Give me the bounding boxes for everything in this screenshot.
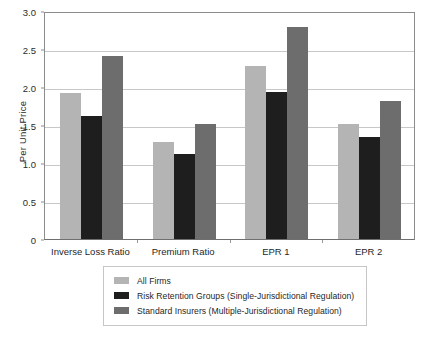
x-axis-tick-label: EPR 2 <box>355 246 382 257</box>
legend-label: All Firms <box>137 276 171 286</box>
y-axis-tick-mark <box>41 126 44 127</box>
bar <box>81 116 102 239</box>
bar <box>195 124 216 239</box>
bar-group <box>245 13 308 239</box>
bar-chart-figure: Per Unit Price Inverse Loss RatioPremium… <box>0 0 428 342</box>
legend-item: All Firms <box>104 273 366 288</box>
y-axis-tick-label: 1.0 <box>0 159 36 170</box>
y-axis-tick-mark <box>41 164 44 165</box>
x-axis-tick-label: EPR 1 <box>262 246 289 257</box>
legend-swatch <box>114 292 129 299</box>
bar-group <box>338 13 401 239</box>
chart-legend: All FirmsRisk Retention Groups (Single-J… <box>103 266 367 326</box>
y-axis-tick-mark <box>41 50 44 51</box>
y-axis-tick-label: 0 <box>0 235 36 246</box>
y-axis-tick-label: 1.5 <box>0 121 36 132</box>
bar <box>380 101 401 239</box>
bar <box>338 124 359 239</box>
x-axis-tick-mark <box>322 240 323 243</box>
bar-group <box>60 13 123 239</box>
legend-item: Risk Retention Groups (Single-Jurisdicti… <box>104 288 366 303</box>
y-axis-tick-label: 3.0 <box>0 7 36 18</box>
y-axis-tick-mark <box>41 12 44 13</box>
legend-label: Risk Retention Groups (Single-Jurisdicti… <box>137 291 354 301</box>
y-axis-tick-mark <box>41 202 44 203</box>
bar <box>174 154 195 239</box>
legend-item: Standard Insurers (Multiple-Jurisdiction… <box>104 303 366 318</box>
bar <box>153 142 174 239</box>
legend-swatch <box>114 277 129 284</box>
x-axis-tick-label: Premium Ratio <box>152 246 215 257</box>
bar <box>245 66 266 239</box>
legend-label: Standard Insurers (Multiple-Jurisdiction… <box>137 306 342 316</box>
y-axis-tick-label: 2.5 <box>0 45 36 56</box>
y-axis-tick-label: 0.5 <box>0 197 36 208</box>
x-axis-tick-mark <box>230 240 231 243</box>
bar <box>102 56 123 239</box>
y-axis-tick-label: 2.0 <box>0 83 36 94</box>
y-axis-tick-mark <box>41 88 44 89</box>
bar <box>60 93 81 239</box>
bar <box>287 27 308 239</box>
y-axis-tick-mark <box>41 240 44 241</box>
x-axis-tick-mark <box>137 240 138 243</box>
bar <box>266 92 287 239</box>
bar-group <box>153 13 216 239</box>
legend-swatch <box>114 307 129 314</box>
bar-series-container <box>45 13 414 239</box>
plot-area <box>44 12 415 240</box>
bar <box>359 137 380 239</box>
x-axis-tick-label: Inverse Loss Ratio <box>51 246 130 257</box>
